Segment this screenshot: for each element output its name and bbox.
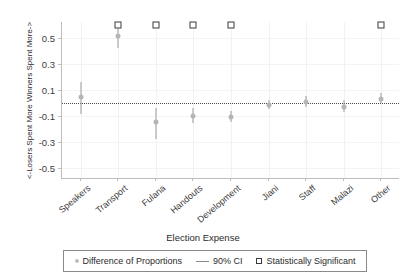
data-point bbox=[78, 95, 83, 100]
significance-marker bbox=[152, 21, 159, 28]
data-point bbox=[116, 34, 121, 39]
significance-marker bbox=[190, 21, 197, 28]
y-axis-tick bbox=[58, 38, 61, 39]
zero-reference-line bbox=[62, 103, 399, 104]
x-axis-tick bbox=[343, 178, 344, 181]
x-axis-tick bbox=[380, 178, 381, 181]
significance-marker bbox=[378, 21, 385, 28]
gridline-vertical bbox=[156, 22, 157, 178]
x-axis-tick bbox=[80, 178, 81, 181]
x-axis-tick bbox=[117, 178, 118, 181]
gridline-vertical bbox=[193, 22, 194, 178]
significance-marker bbox=[228, 21, 235, 28]
chart-container: <-Losers Spent More Winners Spent More->… bbox=[0, 0, 406, 279]
data-point bbox=[341, 104, 346, 109]
data-point bbox=[229, 114, 234, 119]
x-axis-tick bbox=[230, 178, 231, 181]
data-point bbox=[191, 113, 196, 118]
y-axis-label-0.3: 0.3 bbox=[42, 58, 55, 69]
legend-label-difference: Difference of Proportions bbox=[83, 256, 182, 266]
y-axis-tick bbox=[58, 64, 61, 65]
y-axis-tick bbox=[58, 168, 61, 169]
data-point bbox=[379, 96, 384, 101]
legend-item-difference: Difference of Proportions bbox=[75, 256, 182, 266]
data-point bbox=[304, 99, 309, 104]
x-axis-tick bbox=[192, 178, 193, 181]
x-axis-tick bbox=[268, 178, 269, 181]
y-axis-label--0.1: -0.1 bbox=[39, 110, 55, 121]
significance-marker bbox=[115, 21, 122, 28]
y-axis-label-0.1: 0.1 bbox=[42, 84, 55, 95]
x-axis-tick bbox=[305, 178, 306, 181]
data-point bbox=[153, 120, 158, 125]
y-axis-label--0.3: -0.3 bbox=[39, 136, 55, 147]
plot-area bbox=[61, 22, 399, 178]
y-axis-tick bbox=[58, 142, 61, 143]
y-axis-label-0.5: 0.5 bbox=[42, 32, 55, 43]
x-axis-tick bbox=[155, 178, 156, 181]
y-axis-label--0.5: -0.5 bbox=[39, 162, 55, 173]
gridline-vertical bbox=[231, 22, 232, 178]
data-point bbox=[266, 102, 271, 107]
y-axis-tick bbox=[58, 90, 61, 91]
y-axis-title: <-Losers Spent More Winners Spent More-> bbox=[25, 16, 34, 186]
y-axis-tick bbox=[58, 116, 61, 117]
line-icon bbox=[196, 261, 209, 262]
